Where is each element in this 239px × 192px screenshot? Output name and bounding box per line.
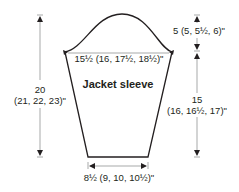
sleeve-body xyxy=(65,52,172,157)
total-length-label-line1: 20 xyxy=(35,84,46,95)
sleeve-cap-curve xyxy=(65,14,172,52)
upper-width-dimension: 15½ (16, 17½, 18½)" xyxy=(68,53,169,64)
cap-height-label: 5 (5, 5½, 6)" xyxy=(173,25,225,36)
upper-width-label: 15½ (16, 17½, 18½)" xyxy=(75,53,164,64)
underarm-length-dimension: 15 (16, 16½, 17)" xyxy=(167,54,227,157)
diagram-title: Jacket sleeve xyxy=(83,78,154,90)
cuff-width-label: 8½ (9, 10, 10½)" xyxy=(84,172,154,183)
total-length-dimension: 20 (21, 22, 23)" xyxy=(14,15,66,157)
jacket-sleeve-schematic: 15½ (16, 17½, 18½)" Jacket sleeve 20 (21… xyxy=(0,0,239,192)
cuff-width-dimension: 8½ (9, 10, 10½)" xyxy=(84,162,154,183)
cap-height-dimension: 5 (5, 5½, 6)" xyxy=(173,15,225,51)
total-length-label-line2: (21, 22, 23)" xyxy=(14,95,66,106)
underarm-length-label-line2: (16, 16½, 17)" xyxy=(167,105,227,116)
underarm-length-label-line1: 15 xyxy=(192,94,203,105)
